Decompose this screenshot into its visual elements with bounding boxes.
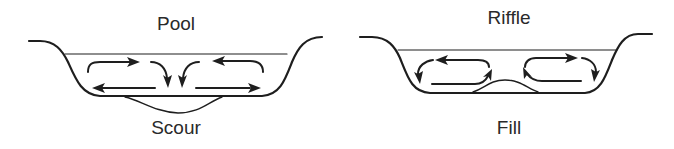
riffle-arrowhead-up-icon: [483, 69, 492, 81]
pool-left-descending-flow: [151, 62, 167, 78]
pool-right-descending-flow: [183, 62, 199, 78]
pool-channel-outline: [29, 37, 322, 96]
riffle-channel-outline: [360, 34, 652, 93]
pool-scour-depression: [125, 97, 222, 113]
riffle-right-descending-flow: [582, 58, 596, 72]
riffle-right-top-flow: [525, 58, 568, 67]
riffle-left-descending-flow: [418, 60, 433, 74]
riffle-left-top-flow: [445, 60, 489, 67]
pool-right-top-flow: [222, 61, 263, 72]
pool-cross-section: [29, 37, 322, 113]
pool-left-top-flow: [88, 62, 130, 72]
riffle-left-bottom-flow: [432, 76, 488, 84]
riffle-cross-section: [360, 34, 652, 93]
channel-cross-section-diagram: [0, 0, 674, 149]
riffle-right-bottom-flow: [527, 74, 581, 81]
